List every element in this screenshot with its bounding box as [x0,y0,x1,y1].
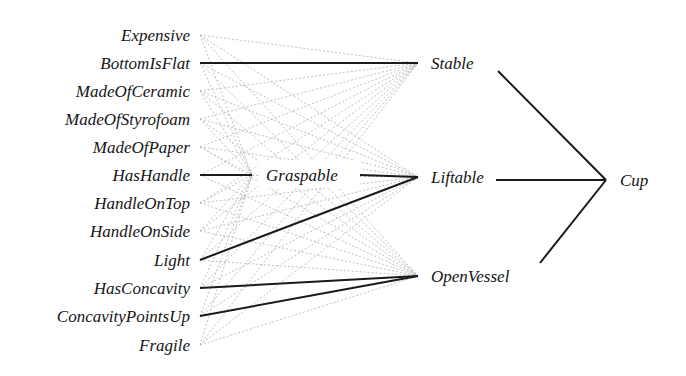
weak-edge [200,91,252,175]
input-node-hashandle: HasHandle [112,166,191,185]
input-node-madeofstyrofoam: MadeOfStyrofoam [64,110,190,129]
weak-edge [200,63,252,175]
weak-edge [200,175,252,345]
weak-edge [200,63,418,231]
input-node-madeofpaper: MadeOfPaper [92,138,191,157]
weak-edge [200,260,418,276]
hidden-node-graspable: Graspable [266,166,338,185]
hidden-node-liftable: Liftable [430,168,484,187]
weak-edge [200,175,252,260]
weak-edge [200,175,252,316]
strong-edge [200,177,418,260]
hidden-node-stable: Stable [431,54,474,73]
weak-edge [200,177,418,288]
weak-edge [200,119,418,276]
weak-edge [200,35,418,177]
input-node-handleontop: HandleOnTop [93,194,190,213]
hidden-node-openvessel: OpenVessel [431,267,510,286]
input-node-fragile: Fragile [138,336,190,355]
weak-edge [200,63,418,91]
weak-edge [200,175,252,231]
weak-edge [200,203,418,276]
input-node-light: Light [153,251,191,270]
input-node-concavitypointsup: ConcavityPointsUp [57,307,190,326]
strong-edge [498,71,606,180]
node-labels: Expensive BottomIsFlat MadeOfCeramic Mad… [57,26,649,355]
strong-edges [200,63,606,316]
input-node-handleonside: HandleOnSide [89,222,191,241]
input-node-bottomisflat: BottomIsFlat [100,54,191,73]
input-node-hasconcavity: HasConcavity [93,279,191,298]
cup-network-diagram: Expensive BottomIsFlat MadeOfCeramic Mad… [0,0,686,376]
weak-edge [200,35,418,63]
weak-edge [200,175,252,203]
output-node-cup: Cup [620,171,648,190]
weak-edge [200,35,252,175]
input-node-madeofceramic: MadeOfCeramic [75,82,191,101]
weak-edge [200,119,252,175]
weak-edge [200,175,252,288]
strong-edge [540,180,606,263]
input-node-expensive: Expensive [120,26,190,45]
